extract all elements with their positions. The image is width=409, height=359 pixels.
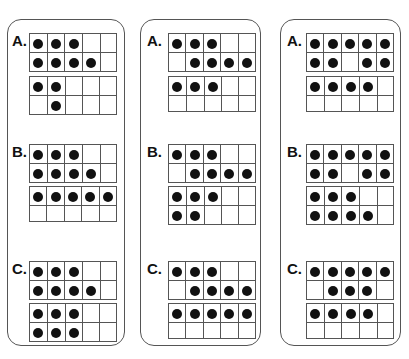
counter-dot-icon (190, 169, 200, 179)
ten-frame-cell (65, 323, 83, 342)
ten-frame (306, 76, 394, 112)
ten-frame-cell (222, 187, 239, 206)
problem-label: A. (147, 32, 162, 49)
counter-dot-icon (346, 211, 356, 221)
ten-frame-cell (324, 304, 342, 323)
ten-frame (306, 186, 394, 225)
ten-frame-cell (359, 187, 377, 206)
ten-frame-cell (99, 187, 116, 206)
ten-frame (168, 186, 256, 225)
ten-frame-cell (221, 281, 238, 300)
ten-frame-cell (204, 77, 222, 96)
counter-dot-icon (51, 39, 61, 49)
ten-frame-cell (239, 187, 256, 206)
ten-frame-cell (203, 323, 220, 339)
counter-dot-icon (242, 286, 252, 296)
counter-dot-icon (346, 82, 356, 92)
ten-frame-cell (47, 304, 65, 323)
ten-frame-cell (324, 53, 341, 72)
ten-frame-cell (47, 206, 64, 222)
counter-dot-icon (33, 192, 43, 202)
counter-dot-icon (190, 82, 200, 92)
ten-frame (168, 76, 256, 112)
ten-frame-cell (100, 34, 116, 53)
ten-frame-cell (324, 96, 342, 112)
counter-dot-icon (328, 309, 338, 319)
ten-frame (29, 303, 117, 342)
counter-dot-icon (51, 82, 61, 92)
problem-label: B. (147, 143, 162, 160)
counter-dot-icon (69, 328, 79, 338)
ten-frame-cell (30, 206, 47, 222)
ten-frame-cell (47, 323, 65, 342)
counter-dot-icon (328, 169, 338, 179)
counter-dot-icon (224, 309, 234, 319)
counter-dot-icon (33, 328, 43, 338)
ten-frame-cell (377, 206, 393, 225)
ten-frame-cell (307, 96, 325, 112)
ten-frame-cell (47, 164, 65, 183)
counter-dot-icon (172, 267, 182, 277)
counter-dot-icon (51, 101, 61, 111)
ten-frame-cell (377, 304, 393, 323)
ten-frame-cell (99, 206, 116, 222)
ten-frame-cell (341, 262, 358, 281)
counter-dot-icon (207, 169, 217, 179)
ten-frame (29, 76, 117, 115)
counter-dot-icon (362, 286, 372, 296)
counter-dot-icon (172, 150, 182, 160)
counter-dot-icon (51, 286, 61, 296)
ten-frame-cell (169, 262, 186, 281)
ten-frame-cell (238, 304, 255, 323)
ten-frame-cell (47, 96, 65, 115)
ten-frame-cell (83, 323, 100, 342)
counter-dot-icon (69, 309, 79, 319)
ten-frame-cell (377, 77, 393, 96)
counter-dot-icon (51, 150, 61, 160)
ten-frame-cell (169, 145, 186, 164)
ten-frame-cell (100, 281, 116, 300)
counter-dot-icon (69, 169, 79, 179)
counter-dot-icon (345, 286, 355, 296)
ten-frame-cell (203, 262, 220, 281)
ten-frame-cell (30, 304, 48, 323)
counter-dot-icon (33, 150, 43, 160)
ten-frame-cell (30, 96, 48, 115)
counter-dot-icon (51, 169, 61, 179)
ten-frame-cell (222, 206, 239, 225)
problem-label: A. (287, 32, 302, 49)
ten-frame-cell (221, 262, 238, 281)
counter-dot-icon (86, 169, 96, 179)
ten-frame-cell (47, 281, 65, 300)
counter-dot-icon (33, 82, 43, 92)
ten-frame-cell (47, 77, 65, 96)
ten-frame-cell (324, 145, 341, 164)
ten-frame-cell (99, 96, 116, 115)
ten-frame-cell (169, 187, 187, 206)
ten-frame-cell (307, 262, 324, 281)
ten-frame-cell (186, 281, 203, 300)
counter-dot-icon (363, 211, 373, 221)
counter-dot-icon (207, 150, 217, 160)
ten-frame-cell (65, 77, 82, 96)
ten-frame-cell (186, 187, 204, 206)
ten-frame-cell (377, 187, 393, 206)
ten-frame-cell (186, 206, 204, 225)
counter-dot-icon (310, 58, 320, 68)
problem-label: C. (147, 260, 162, 277)
ten-frame-cell (307, 206, 325, 225)
ten-frame-cell (186, 323, 203, 339)
ten-frame-cell (377, 96, 393, 112)
ten-frame-cell (238, 164, 255, 183)
counter-dot-icon (310, 267, 320, 277)
counter-dot-icon (69, 58, 79, 68)
ten-frame-cell (238, 145, 255, 164)
ten-frame-cell (324, 323, 342, 339)
ten-frame-cell (376, 34, 393, 53)
ten-frame-cell (222, 77, 239, 96)
ten-frame-cell (47, 262, 65, 281)
ten-frame-cell (64, 206, 81, 222)
counter-dot-icon (33, 286, 43, 296)
ten-frame-cell (359, 281, 376, 300)
counter-dot-icon (224, 58, 234, 68)
